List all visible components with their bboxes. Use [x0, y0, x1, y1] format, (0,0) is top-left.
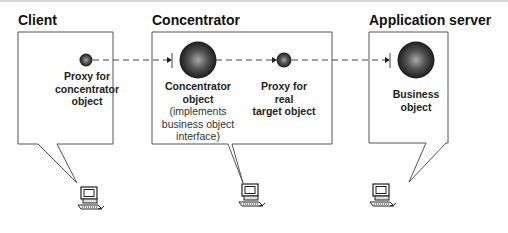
concentrator-heading: Concentrator [152, 12, 240, 28]
application-server-heading: Application server [369, 12, 491, 28]
note-line: business object [153, 118, 243, 131]
concentrator-object-label: Concentrator object (implements business… [153, 80, 243, 143]
client-box [18, 32, 113, 183]
label-line: Business [380, 88, 452, 101]
business-object-label: Business object [380, 88, 452, 113]
label-line: real [244, 93, 324, 106]
client-proxy-sphere-icon [80, 54, 93, 67]
label-line: concentrator [40, 83, 134, 96]
client-proxy-label: Proxy for concentrator object [40, 70, 134, 108]
label-line: object [380, 101, 452, 114]
note-line: (implements [153, 105, 243, 118]
label-line: object [40, 95, 134, 108]
business-object-sphere-icon [398, 42, 435, 79]
label-line: object [153, 93, 243, 106]
concentrator-object-sphere-icon [180, 42, 217, 79]
label-line: Proxy for [40, 70, 134, 83]
real-target-proxy-label: Proxy for real target object [244, 80, 324, 118]
concentrator-computer-icon [239, 184, 265, 206]
application-server-computer-icon [370, 184, 396, 206]
real-target-proxy-sphere-icon [277, 53, 292, 68]
label-line: target object [244, 105, 324, 118]
label-line: Proxy for [244, 80, 324, 93]
client-heading: Client [18, 12, 57, 28]
client-computer-icon [78, 187, 104, 209]
note-line: interface) [153, 130, 243, 143]
label-line: Concentrator [153, 80, 243, 93]
